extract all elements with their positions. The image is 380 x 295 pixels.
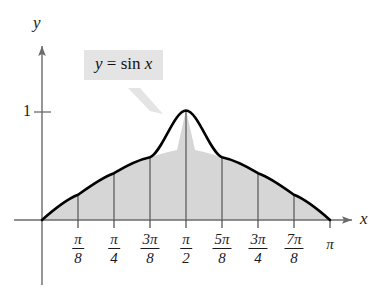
callout-lhs: y (95, 54, 103, 73)
callout-pointer-tail (128, 88, 163, 114)
y-axis-label: y (33, 14, 41, 31)
y-tick-label-1: 1 (23, 103, 31, 119)
callout-function-name: sin (121, 54, 141, 73)
plot-canvas (0, 0, 380, 295)
callout-argument: x (145, 54, 153, 73)
curve-equation-callout: y = sin x (84, 50, 163, 80)
y-axis (38, 46, 46, 285)
callout-equals: = (103, 54, 121, 73)
x-axis-label: x (360, 210, 368, 227)
sine-curve-figure: y x 1 y = sin x π 8 π 4 3π 8 (0, 0, 380, 295)
x-tick-marks (78, 220, 330, 228)
